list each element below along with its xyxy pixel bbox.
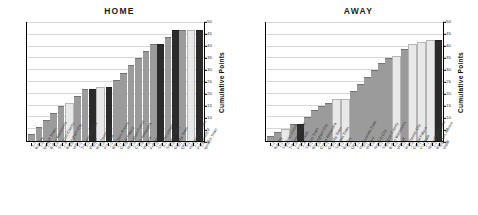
x-axis-tick: 0-6WBA	[435, 143, 443, 213]
x-axis-tick: 2-2Tranmere Rovers	[73, 143, 81, 213]
x-axis-tick: 3-0Norwich City	[366, 143, 374, 213]
x-axis-tick: 4-2Walsall	[389, 143, 397, 213]
x-axis-tick: 2-1Crystal Palace	[112, 143, 120, 213]
x-axis-tick: 1-0Birmingham City	[58, 143, 66, 213]
y-axis-tick-label: 45	[446, 32, 451, 36]
x-axis-tick: 1-0Ipswich Town	[35, 143, 43, 213]
y-axis-tick-label: 45	[207, 32, 212, 36]
y-axis-title-away: Cumulative Points	[454, 22, 466, 142]
x-axis-tick: 2-0Port Vale	[96, 143, 104, 213]
bar	[157, 44, 164, 141]
x-axis-tick: 3-0Bolton Wanderers	[382, 143, 390, 213]
x-axis-labels-home: 3-1Burnley1-0Ipswich Town2-1Bolton Wande…	[26, 143, 205, 213]
x-axis-tick: 2-0Portsmouth	[289, 143, 297, 213]
y-axis-tick-label: 40	[207, 44, 212, 48]
x-axis-tick: 1-2Burnley	[266, 143, 274, 213]
x-axis-tick: 2-1Sheffield United	[274, 143, 282, 213]
y-axis-tick-label: 15	[446, 104, 451, 108]
x-axis-tick: 1-0Fulham	[143, 143, 151, 213]
x-axis-tick: 1-0Crystal Palace	[405, 143, 413, 213]
plot-area-home	[26, 22, 205, 142]
x-axis-labels-away: 1-2Burnley2-1Sheffield United2-2Tranmere…	[265, 143, 444, 213]
x-axis-tick: 0-0WBA	[66, 143, 74, 213]
x-axis-tick: 3-1Watford	[358, 143, 366, 213]
x-axis-tick: 0-0QPR	[343, 143, 351, 213]
bar	[350, 91, 356, 141]
bar-series-home	[27, 23, 204, 141]
x-axis-tick: 1-2Sheffield United	[150, 143, 158, 213]
x-axis-tick: 1-1Manchester City	[397, 143, 405, 213]
x-axis-tick: 2-1Huddersfield Town	[351, 143, 359, 213]
y-axis-tick-label: 15	[207, 104, 212, 108]
y-axis-tick-label: 30	[446, 68, 451, 72]
x-axis-tick: 4-0Grimsby Town	[166, 143, 174, 213]
y-axis-tick-label: 35	[207, 56, 212, 60]
y-axis-title-home: Cumulative Points	[215, 22, 227, 142]
y-axis-tick-label: 50	[446, 20, 451, 24]
x-axis-tick: 3-1Stockport County	[374, 143, 382, 213]
x-axis-tick: 1-0Ipswich Town	[196, 143, 204, 213]
x-axis-tick: 4-0Stockport County	[50, 143, 58, 213]
y-axis-tick-label: 40	[446, 44, 451, 48]
y-axis-tick-label: 20	[207, 92, 212, 96]
bar	[187, 30, 196, 141]
x-axis-tick: 5-2Grimsby Town	[320, 143, 328, 213]
x-axis-tick: 2-0Crewe Alexandra	[312, 143, 320, 213]
x-axis-tick: 1-2Blackburn Rovers	[104, 143, 112, 213]
x-axis-tick: 0-1Birmingham City	[305, 143, 313, 213]
panel-away: AWAY 05101520253035404550 Cumulative Poi…	[239, 0, 478, 215]
y-axis-tick-label: 35	[446, 56, 451, 60]
x-axis-tick: 1-1Burnley	[335, 143, 343, 213]
x-axis-tick: 2-2Tranmere Rovers	[281, 143, 289, 213]
y-axis-title-text-away: Cumulative Points	[457, 52, 464, 113]
x-axis-tick: 3-0Nottingham Forest	[119, 143, 127, 213]
y-axis-tick-label: 25	[446, 80, 451, 84]
x-axis-tick: 2-4Stretton Town	[297, 143, 305, 213]
x-axis-tick: 0-1Manchester City	[89, 143, 97, 213]
y-axis-tick-label: 20	[446, 92, 451, 96]
x-axis-tick: 0-1QPR	[173, 143, 181, 213]
y-axis-tick-label: 50	[207, 20, 212, 24]
x-axis-tick: 2-1Bolton Wanderers	[42, 143, 50, 213]
y-axis-title-text-home: Cumulative Points	[218, 52, 225, 113]
x-axis-tick: 1-0Crewe Alexandra	[127, 143, 135, 213]
panel-title-away: AWAY	[239, 6, 478, 16]
x-axis-tick: 1-1Nottingham Forest	[420, 143, 428, 213]
x-axis-tick: 3-1Burnley	[27, 143, 35, 213]
x-axis-tick: 2-2Port Vale	[412, 143, 420, 213]
y-axis-tick-label: 30	[207, 68, 212, 72]
panel-title-home: HOME	[0, 6, 239, 16]
y-axis-tick-label: 25	[207, 80, 212, 84]
x-axis-tick: 2-1Walsall	[81, 143, 89, 213]
panel-home: HOME 05101520253035404550 Cumulative Poi…	[0, 0, 239, 215]
dual-bar-chart-figure: HOME 05101520253035404550 Cumulative Poi…	[0, 0, 478, 215]
x-axis-tick: 2-1Swindon Town	[328, 143, 336, 213]
y-axis-tick-label: 10	[207, 116, 212, 120]
x-axis-tick: 1-1Blackburn Rovers	[428, 143, 436, 213]
x-axis-tick: 0-1Huddersfield Town	[181, 143, 189, 213]
opponent-name: WBA	[443, 140, 451, 150]
x-axis-tick: 0-1Swindon Town	[158, 143, 166, 213]
x-axis-tick: 1-1Portsmouth	[189, 143, 197, 213]
x-axis-tick: 2-0Watford	[135, 143, 143, 213]
bar	[426, 40, 434, 141]
